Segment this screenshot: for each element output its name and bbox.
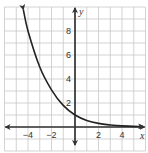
x-tick-label: 2 xyxy=(96,130,101,140)
x-axis-label: x xyxy=(139,130,145,141)
exponential-curve xyxy=(23,9,143,126)
y-tick-label: 6 xyxy=(66,50,71,60)
y-tick-label: 2 xyxy=(66,98,71,108)
y-tick-label: 8 xyxy=(66,26,71,36)
x-tick-label: 4 xyxy=(119,130,124,140)
x-tick-label: −2 xyxy=(46,130,56,140)
exponential-graph: −4−2242468 x y xyxy=(0,0,148,153)
y-axis-label: y xyxy=(78,6,84,17)
y-tick-label: 4 xyxy=(66,74,71,84)
axes xyxy=(6,8,145,145)
x-tick-label: −4 xyxy=(23,130,33,140)
